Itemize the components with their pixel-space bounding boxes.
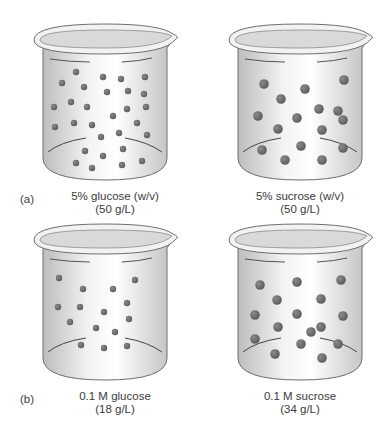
solute-particle (124, 300, 130, 306)
solute-particle (296, 339, 306, 349)
solute-particle (118, 76, 124, 82)
solute-particle (300, 84, 310, 94)
solute-particle (280, 155, 290, 165)
solute-particle (84, 104, 90, 110)
solute-particle (255, 280, 265, 290)
solute-particle (134, 120, 140, 126)
solute-particle (116, 130, 122, 136)
caption-0-1m-glucose: 0.1 M glucose (18 g/L) (55, 390, 175, 416)
part-label-b: (b) (20, 393, 34, 405)
caption-5pct-glucose: 5% glucose (w/v) (50 g/L) (55, 190, 175, 216)
solute-particle (55, 304, 61, 310)
caption-line1: 0.1 M glucose (55, 390, 175, 403)
solute-particle (132, 277, 138, 283)
solute-particle (317, 353, 327, 363)
solute-particle (259, 79, 269, 89)
beaker-drawing (225, 20, 375, 185)
caption-line2: (34 g/L) (240, 403, 360, 416)
solute-particle (257, 145, 267, 155)
solute-particle (80, 286, 86, 292)
solute-particle (250, 310, 260, 320)
solute-particle (124, 343, 130, 349)
solute-particle (306, 327, 316, 337)
beaker-0-1m-sucrose (225, 220, 375, 385)
caption-line2: (50 g/L) (55, 203, 175, 216)
solute-particle (89, 165, 95, 171)
solute-particle (292, 113, 302, 123)
solute-particle (273, 124, 283, 134)
solute-particle (336, 275, 346, 285)
solute-particle (120, 146, 126, 152)
solute-particle (250, 334, 260, 344)
solute-particle (82, 148, 88, 154)
solute-particle (73, 160, 79, 166)
solute-particle (270, 349, 280, 359)
beaker-drawing (30, 20, 180, 185)
caption-line1: 5% glucose (w/v) (55, 190, 175, 203)
solute-particle (126, 316, 132, 322)
solute-particle (317, 125, 327, 135)
solute-particle (296, 141, 306, 151)
solute-particle (78, 342, 84, 348)
solute-particle (316, 322, 326, 332)
solute-particle (100, 153, 106, 159)
beaker-drawing (225, 220, 375, 385)
solute-particle (101, 345, 107, 351)
solute-particle (68, 99, 74, 105)
caption-line2: (50 g/L) (240, 203, 360, 216)
caption-line2: (18 g/L) (55, 403, 175, 416)
solute-particle (272, 295, 282, 305)
beaker-drawing (30, 220, 180, 385)
solute-particle (110, 113, 116, 119)
solute-particle (141, 91, 147, 97)
beaker-5pct-glucose (30, 20, 180, 185)
solute-particle (144, 132, 150, 138)
solute-particle (273, 322, 283, 332)
solute-particle (276, 94, 286, 104)
solute-particle (317, 155, 327, 165)
solute-particle (333, 339, 343, 349)
solute-particle (89, 122, 95, 128)
solute-particle (314, 104, 324, 114)
solute-particle (52, 124, 58, 130)
solute-particle (98, 134, 104, 140)
solute-particle (112, 329, 118, 335)
solute-particle (338, 311, 348, 321)
caption-line1: 0.1 M sucrose (240, 390, 360, 403)
caption-5pct-sucrose: 5% sucrose (w/v) (50 g/L) (240, 190, 360, 216)
caption-0-1m-sucrose: 0.1 M sucrose (34 g/L) (240, 390, 360, 416)
solute-particle (333, 106, 343, 116)
solute-particle (104, 89, 110, 95)
solute-particle (56, 275, 62, 281)
solute-particle (119, 162, 125, 168)
beaker-0-1m-glucose (30, 220, 180, 385)
solute-particle (67, 319, 73, 325)
caption-line1: 5% sucrose (w/v) (240, 190, 360, 203)
solute-particle (142, 74, 148, 80)
solute-particle (59, 80, 65, 86)
solute-particle (253, 111, 263, 121)
solute-particle (73, 69, 79, 75)
beaker-5pct-sucrose (225, 20, 375, 185)
solute-particle (292, 309, 302, 319)
solute-particle (316, 294, 326, 304)
solute-particle (110, 286, 116, 292)
solute-particle (125, 88, 131, 94)
solute-particle (139, 158, 145, 164)
solute-particle (292, 277, 302, 287)
solute-particle (81, 84, 87, 90)
solute-particle (338, 115, 348, 125)
solute-particle (100, 74, 106, 80)
solute-particle (71, 120, 77, 126)
solute-particle (338, 143, 348, 153)
part-label-a: (a) (20, 193, 34, 205)
solute-particle (77, 304, 83, 310)
solute-particle (124, 106, 130, 112)
solute-particle (143, 104, 149, 110)
solute-particle (93, 325, 99, 331)
solute-particle (339, 75, 349, 85)
solute-particle (51, 104, 57, 110)
solute-particle (101, 309, 107, 315)
